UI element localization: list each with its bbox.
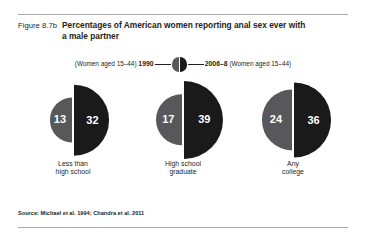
category-label: High school graduate — [165, 160, 201, 177]
value-label-2006: 32 — [86, 114, 98, 125]
legend-halfdisc-icon — [172, 57, 187, 72]
chart-legend: (Women aged 15–44) 1990 2006–8 (Women ag… — [0, 54, 366, 74]
category-label: Less than high school — [56, 160, 91, 177]
figure-header: Figure 8.7b Percentages of American wome… — [18, 20, 350, 42]
half-disc-2006: 39 — [184, 81, 223, 159]
legend-connector-left — [155, 64, 171, 65]
value-label-1990: 24 — [270, 114, 282, 125]
half-disc-1990: 13 — [50, 97, 73, 142]
figure-container: Figure 8.7b Percentages of American wome… — [0, 0, 366, 244]
legend-label-1990: (Women aged 15–44) 1990 — [75, 60, 154, 68]
legend-icon-left-half — [172, 57, 179, 72]
legend-2006-year: 2006–8 — [205, 60, 228, 67]
pie-chart-3: 2436Any college — [238, 82, 348, 177]
legend-1990-prefix: (Women aged 15–44) — [75, 60, 138, 67]
pie-chart-1: 1332Less than high school — [18, 82, 128, 177]
legend-2006-suffix: (Women aged 15–44) — [228, 60, 291, 67]
half-disc-pair: 1739 — [128, 82, 238, 158]
bottom-divider — [18, 227, 348, 228]
legend-connector-right — [188, 64, 204, 65]
legend-label-2006: 2006–8 (Women aged 15–44) — [205, 60, 291, 68]
pie-chart-group: 1332Less than high school1739High school… — [18, 82, 348, 177]
figure-title: Percentages of American women reporting … — [62, 20, 310, 42]
half-disc-pair: 2436 — [238, 82, 348, 158]
top-divider — [18, 14, 348, 15]
half-disc-2006: 36 — [294, 82, 331, 157]
legend-1990-year: 1990 — [138, 60, 153, 67]
value-label-1990: 13 — [54, 114, 66, 125]
value-label-2006: 36 — [307, 114, 319, 125]
half-disc-1990: 17 — [156, 94, 182, 145]
half-disc-2006: 32 — [74, 85, 109, 156]
legend-icon-right-half — [180, 57, 187, 72]
half-disc-pair: 1332 — [18, 82, 128, 158]
value-label-2006: 39 — [198, 114, 210, 125]
category-label: Any college — [282, 160, 304, 177]
figure-number: Figure 8.7b — [18, 20, 57, 31]
source-note: Source: Michael et al. 1994; Chandra et … — [18, 209, 144, 217]
half-disc-1990: 24 — [262, 89, 293, 150]
value-label-1990: 17 — [162, 114, 174, 125]
pie-chart-2: 1739High school graduate — [128, 82, 238, 177]
